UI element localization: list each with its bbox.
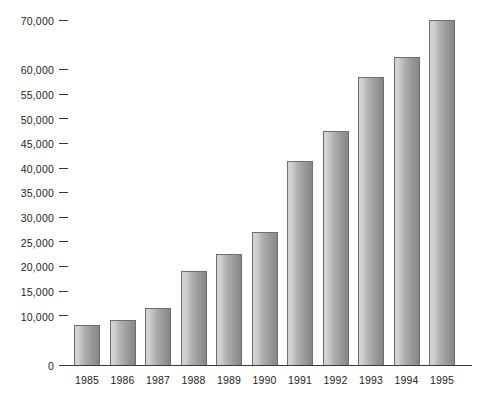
bar [394,57,420,365]
y-axis-tick-label: 55,000 [21,89,54,100]
y-axis-tick-mark [59,365,68,366]
y-axis-tick-label: 50,000 [21,114,54,125]
y-axis-tick-mark [59,315,68,316]
bar [181,271,207,365]
y-axis-tick-label: 0 [48,360,54,371]
x-axis-tick-label: 1995 [419,374,465,386]
y-axis-tick-label: 70,000 [21,16,54,27]
y-axis-tick-mark [59,266,68,267]
y-axis-tick-mark [59,241,68,242]
y-axis-tick-label: 10,000 [21,311,54,322]
y-axis-tick-label: 20,000 [21,262,54,273]
y-axis-tick-mark [59,69,68,70]
bar [287,161,313,365]
y-axis-tick-mark [59,217,68,218]
y-axis-tick-mark [59,291,68,292]
bar [252,232,278,365]
x-axis-baseline [68,365,472,366]
bar-chart: 010,00015,00020,00025,00030,00035,00040,… [0,0,478,401]
x-axis: 1985198619871988198919901991199219931994… [68,374,478,396]
y-axis-tick-label: 15,000 [21,286,54,297]
y-axis-tick-label: 40,000 [21,163,54,174]
y-axis-tick-mark [59,143,68,144]
bar [216,254,242,365]
y-axis-tick-mark [59,20,68,21]
bar [323,131,349,365]
bar [110,320,136,365]
y-axis: 010,00015,00020,00025,00030,00035,00040,… [0,0,68,372]
y-axis-tick-mark [59,192,68,193]
y-axis-tick-label: 25,000 [21,237,54,248]
y-axis-tick-label: 45,000 [21,139,54,150]
bar [429,20,455,365]
y-axis-tick-mark [59,168,68,169]
bar [145,308,171,365]
y-axis-tick-label: 35,000 [21,188,54,199]
plot-area [68,0,478,372]
y-axis-tick-label: 30,000 [21,213,54,224]
bar [358,77,384,365]
bar [74,325,100,365]
y-axis-tick-mark [59,118,68,119]
y-axis-tick-mark [59,94,68,95]
y-axis-tick-label: 60,000 [21,65,54,76]
